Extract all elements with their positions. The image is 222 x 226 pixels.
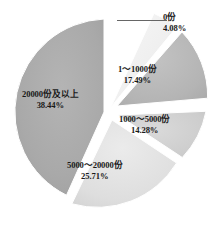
pie-label-5000-20000-value: 25.71% — [67, 171, 123, 182]
pie-label-20000-and-above-value: 38.44% — [22, 100, 79, 111]
pie-label-20000-and-above: 20000份及以上 38.44% — [22, 89, 79, 111]
pie-label-0: 0份 4.08% — [163, 12, 186, 34]
pie-label-1-1000-value: 17.49% — [118, 75, 157, 86]
pie-label-1000-5000: 1000～5000份 14.28% — [119, 114, 170, 136]
pie-label-5000-20000-category: 5000～20000份 — [67, 160, 123, 171]
pie-label-1000-5000-value: 14.28% — [119, 125, 170, 136]
pie-chart-canvas — [0, 0, 222, 226]
pie-label-1-1000-category: 1～1000份 — [118, 64, 157, 75]
pie-label-20000-and-above-category: 20000份及以上 — [22, 89, 79, 100]
pie-label-5000-20000: 5000～20000份 25.71% — [67, 160, 123, 182]
pie-label-0-value: 4.08% — [163, 23, 186, 34]
pie-label-0-category: 0份 — [163, 12, 186, 23]
pie-label-1000-5000-category: 1000～5000份 — [119, 114, 170, 125]
pie-label-1-1000: 1～1000份 17.49% — [118, 64, 157, 86]
pie-chart: 0份 4.08% 1～1000份 17.49% 1000～5000份 14.28… — [0, 0, 222, 226]
